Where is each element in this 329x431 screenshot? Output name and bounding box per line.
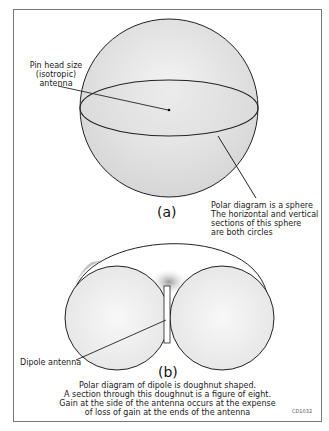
- label-line: Pin head size: [24, 61, 88, 70]
- desc-line: Polar diagram is a sphere: [211, 201, 326, 210]
- desc-line: are both circles: [211, 228, 326, 237]
- dipole-antenna-label: Dipole antenna: [20, 358, 81, 367]
- desc-line: Gain at the side of the antenna occurs a…: [40, 399, 295, 408]
- dipole-antenna: [164, 286, 170, 343]
- part-b-label: (b): [158, 364, 178, 380]
- doughnut-description: Polar diagram of dipole is doughnut shap…: [40, 381, 295, 417]
- desc-line: Polar diagram of dipole is doughnut shap…: [40, 381, 295, 390]
- doughnut-diagram: [65, 244, 274, 370]
- label-line: antenna: [24, 79, 88, 88]
- desc-line: The horizontal and vertical: [211, 210, 326, 219]
- part-a-label: (a): [157, 204, 177, 220]
- figure-code: CD1032: [292, 408, 312, 414]
- sphere-description: Polar diagram is a sphere The horizontal…: [211, 201, 326, 237]
- desc-line: sections of this sphere: [211, 219, 326, 228]
- label-line: (isotropic): [24, 70, 88, 79]
- desc-line: A section through this doughnut is a fig…: [40, 390, 295, 399]
- isotropic-antenna-label: Pin head size (isotropic) antenna: [24, 61, 88, 88]
- isotropic-antenna-point: [168, 109, 171, 112]
- sphere-diagram: [58, 19, 258, 198]
- desc-line: of loss of gain at the ends of the anten…: [40, 408, 295, 417]
